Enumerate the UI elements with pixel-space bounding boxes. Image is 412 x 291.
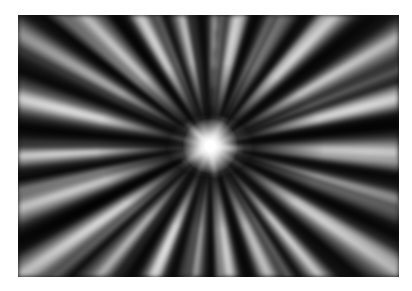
center-bright-star <box>18 15 399 277</box>
zoom-burst-photo <box>18 15 399 277</box>
